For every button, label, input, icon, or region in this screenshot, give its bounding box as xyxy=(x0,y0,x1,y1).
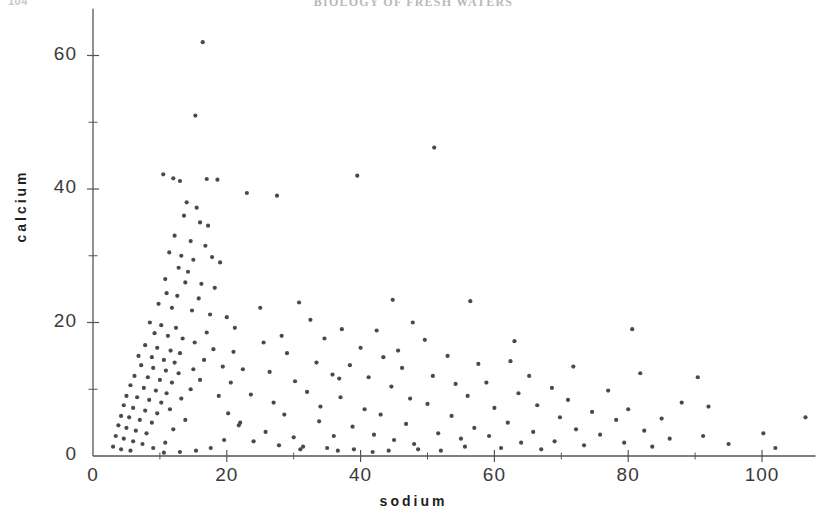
data-point xyxy=(660,417,664,421)
data-point xyxy=(379,413,383,417)
data-point xyxy=(178,351,182,355)
data-point xyxy=(264,430,268,434)
data-point xyxy=(566,398,570,402)
data-point xyxy=(218,260,222,264)
data-point xyxy=(466,394,470,398)
data-point xyxy=(217,394,221,398)
data-point xyxy=(297,300,301,304)
book-page: 104 BIOLOGY OF FRESH WATERS calcium sodi… xyxy=(0,0,827,520)
data-point xyxy=(163,441,167,445)
data-point xyxy=(245,191,249,195)
data-point xyxy=(363,407,367,411)
data-point xyxy=(372,433,376,437)
data-point xyxy=(387,449,391,453)
data-point xyxy=(487,434,491,438)
data-point xyxy=(268,370,272,374)
data-point xyxy=(233,326,237,330)
data-point xyxy=(325,446,329,450)
data-point xyxy=(139,363,143,367)
data-point xyxy=(127,415,131,419)
data-point xyxy=(148,320,152,324)
data-point xyxy=(314,360,318,364)
data-point xyxy=(173,234,177,238)
data-point xyxy=(164,368,168,372)
data-point xyxy=(150,355,154,359)
data-point xyxy=(163,277,167,281)
data-point xyxy=(209,446,213,450)
x-tick-label: 20 xyxy=(187,464,267,486)
data-point xyxy=(124,426,128,430)
data-point xyxy=(371,450,375,454)
data-point xyxy=(175,294,179,298)
data-point xyxy=(156,302,160,306)
data-point xyxy=(213,286,217,290)
data-point xyxy=(170,380,174,384)
data-point xyxy=(476,362,480,366)
data-point xyxy=(317,419,321,423)
data-point xyxy=(143,343,147,347)
x-tick-label: 60 xyxy=(454,464,534,486)
data-point xyxy=(355,174,359,178)
y-tick-label: 40 xyxy=(15,176,77,198)
data-point xyxy=(114,434,118,438)
data-point xyxy=(155,346,159,350)
data-point xyxy=(183,418,187,422)
data-point xyxy=(146,375,150,379)
data-point xyxy=(178,450,182,454)
data-point xyxy=(140,442,144,446)
data-point xyxy=(135,395,139,399)
data-point xyxy=(803,415,807,419)
data-point xyxy=(205,177,209,181)
data-point xyxy=(166,334,170,338)
data-point xyxy=(571,364,575,368)
data-point xyxy=(195,206,199,210)
data-point-group xyxy=(111,40,808,455)
data-point xyxy=(553,439,557,443)
data-point xyxy=(400,366,404,370)
data-point xyxy=(436,431,440,435)
data-point xyxy=(202,358,206,362)
data-point xyxy=(231,350,235,354)
data-point xyxy=(305,390,309,394)
data-point xyxy=(322,336,326,340)
data-point xyxy=(191,258,195,262)
data-point xyxy=(680,401,684,405)
data-point xyxy=(142,386,146,390)
data-point xyxy=(275,194,279,198)
data-point xyxy=(211,347,215,351)
data-point xyxy=(131,406,135,410)
data-point xyxy=(143,409,147,413)
data-point xyxy=(159,323,163,327)
data-point xyxy=(122,437,126,441)
data-point xyxy=(340,327,344,331)
x-tick-label: 80 xyxy=(588,464,668,486)
data-point xyxy=(162,358,166,362)
data-point xyxy=(152,331,156,335)
data-point xyxy=(449,414,453,418)
data-point xyxy=(381,355,385,359)
data-point xyxy=(258,306,262,310)
data-point xyxy=(210,255,214,259)
data-point xyxy=(642,429,646,433)
data-point xyxy=(226,411,230,415)
scatter-plot xyxy=(0,0,827,520)
data-point xyxy=(606,388,610,392)
data-point xyxy=(151,366,155,370)
data-point xyxy=(162,451,166,455)
data-point xyxy=(506,421,510,425)
data-point xyxy=(352,447,356,451)
data-point xyxy=(197,296,201,300)
data-point xyxy=(161,172,165,176)
data-point xyxy=(630,327,634,331)
data-point xyxy=(391,298,395,302)
x-tick-label: 100 xyxy=(722,464,802,486)
data-point xyxy=(198,378,202,382)
x-tick-label: 0 xyxy=(53,464,133,486)
data-point xyxy=(193,113,197,117)
data-point xyxy=(193,340,197,344)
data-point xyxy=(164,291,168,295)
data-point xyxy=(134,429,138,433)
data-point xyxy=(150,421,154,425)
data-point xyxy=(147,398,151,402)
data-point xyxy=(484,380,488,384)
